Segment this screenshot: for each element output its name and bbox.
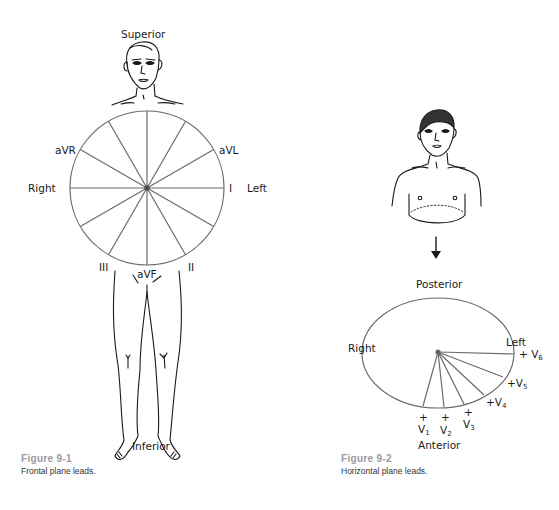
plus-v1: +	[419, 412, 428, 423]
label-anterior: Anterior	[418, 440, 460, 451]
figure-2-text: Horizontal plane leads.	[341, 466, 427, 476]
horizontal-plane-figure	[0, 0, 559, 510]
figure-2-number: Figure 9-2	[341, 453, 427, 464]
label-v2: V2	[440, 425, 452, 438]
label-v3: V3	[463, 419, 475, 432]
label-v5: +V5	[507, 378, 527, 391]
label-left-horizontal: Left	[506, 337, 526, 348]
label-v6: + V6	[519, 349, 543, 362]
figure-2-caption: Figure 9-2 Horizontal plane leads.	[341, 453, 427, 476]
torso-illustration	[392, 110, 481, 259]
label-posterior: Posterior	[416, 279, 462, 290]
label-v4: +V4	[486, 397, 506, 410]
label-right-horizontal: Right	[348, 343, 376, 354]
diagram-canvas: Superior aVR aVL Right I Left III II aVF…	[0, 0, 559, 510]
plus-v3: +	[464, 407, 473, 418]
horizontal-lead-ellipse	[362, 298, 514, 408]
label-v1: V1	[418, 424, 430, 437]
plus-v2: +	[441, 412, 450, 423]
